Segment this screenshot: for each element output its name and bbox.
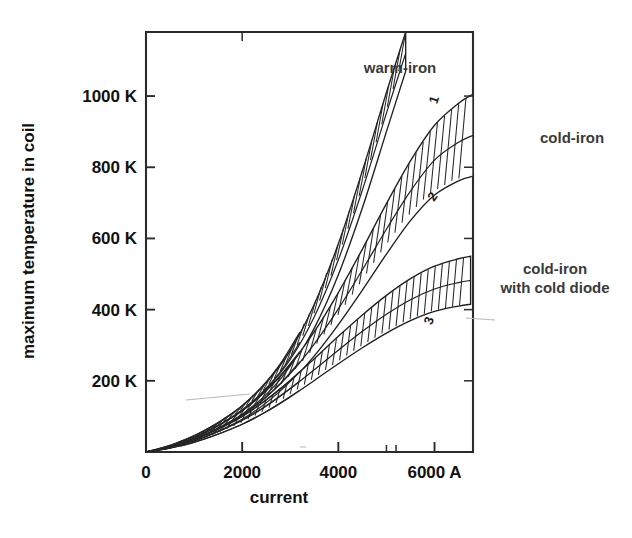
annotation-warm-iron: warm-iron (363, 59, 437, 76)
band-number-1: 1 (425, 94, 442, 106)
x-axis-title: current (250, 488, 309, 507)
x-tick-label-0: 0 (141, 463, 150, 482)
axis-ticks (146, 32, 473, 452)
temperature-current-chart: 200 K400 K600 K800 K1000 K0200040006000 … (0, 0, 632, 538)
y-tick-label-3: 800 K (92, 158, 138, 177)
x-tick-label-2: 4000 (319, 463, 357, 482)
plot-annotations: warm-iron cold-iron cold-iron with cold … (363, 59, 610, 296)
y-tick-label-1: 400 K (92, 301, 138, 320)
annotation-cold-iron-cold-diode-line2: with cold diode (499, 279, 609, 296)
x-tick-label-3: 6000 A (407, 463, 461, 482)
annotation-cold-iron: cold-iron (540, 129, 604, 146)
x-tick-label-1: 2000 (223, 463, 261, 482)
data-bands (146, 32, 473, 452)
y-tick-label-2: 600 K (92, 229, 138, 248)
y-axis-title: maximum temperature in coil (19, 123, 38, 359)
plot-frame (146, 32, 473, 452)
band-number-3: 3 (420, 314, 437, 326)
chart-figure: 200 K400 K600 K800 K1000 K0200040006000 … (0, 0, 632, 538)
annotation-cold-iron-cold-diode-line1: cold-iron (523, 260, 587, 277)
y-tick-label-0: 200 K (92, 372, 138, 391)
y-tick-label-4: 1000 K (82, 87, 138, 106)
